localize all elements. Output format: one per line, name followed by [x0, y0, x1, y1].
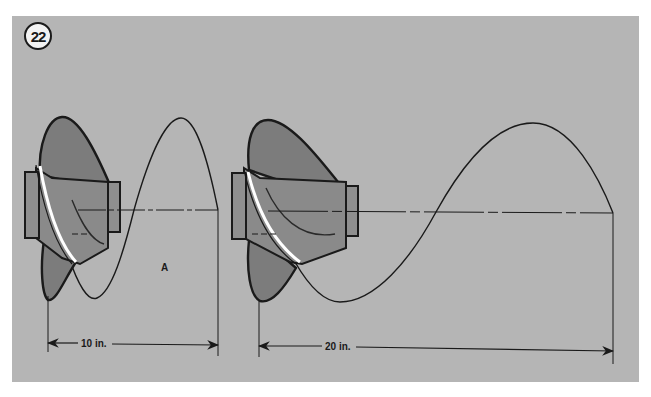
dimension-line-left-b [112, 344, 218, 345]
dimension-label-10in: 10 in. [79, 338, 109, 350]
blade-top-left [40, 117, 110, 185]
rear-collar-right [232, 173, 246, 239]
propeller-right [232, 120, 613, 364]
propeller-left [25, 117, 218, 356]
dimension-line-right-b [356, 347, 613, 351]
blade-top-right [248, 120, 338, 184]
rear-collar-left [25, 172, 39, 238]
figure-number-badge: 22 [24, 22, 52, 50]
region-label-a: A [161, 262, 168, 273]
dimension-label-20in: 20 in. [323, 341, 353, 353]
front-cap-left [108, 182, 120, 232]
